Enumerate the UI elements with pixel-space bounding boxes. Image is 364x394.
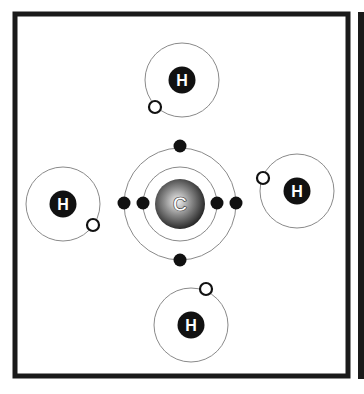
hydrogen-label: H (291, 183, 303, 200)
carbon-electron (174, 140, 187, 153)
hydrogen-label: H (176, 72, 188, 89)
hydrogen-electron (200, 283, 212, 295)
methane-diagram: C HHHH (0, 0, 364, 394)
carbon-electron (211, 197, 224, 210)
carbon-electron (174, 254, 187, 267)
carbon-label: C (173, 193, 187, 215)
hydrogen-electron (149, 101, 161, 113)
carbon-electron (118, 197, 131, 210)
adjacent-panel-edge (358, 12, 364, 379)
hydrogen-electron (87, 219, 99, 231)
carbon-electron (230, 197, 243, 210)
carbon-electron (137, 197, 150, 210)
hydrogen-electron (257, 172, 269, 184)
hydrogen-label: H (185, 317, 197, 334)
hydrogen-label: H (57, 196, 69, 213)
